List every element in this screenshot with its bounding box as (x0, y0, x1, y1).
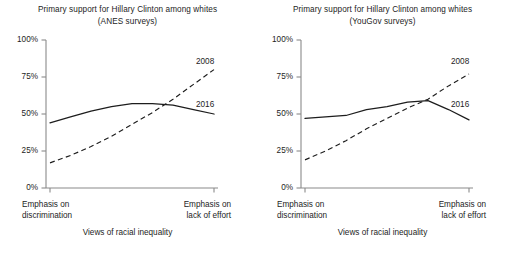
x-axis-category-right-line1: Emphasis on (439, 200, 486, 209)
series-line-2016 (305, 101, 469, 120)
x-axis-category-left-line1: Emphasis on (22, 200, 69, 209)
chart-panel-yougov: Primary support for Hillary Clinton amon… (255, 0, 510, 257)
series-annotation-2016: 2016 (196, 100, 214, 109)
series-annotation-2008: 2008 (196, 57, 214, 66)
y-axis-label-0: 0% (259, 183, 293, 192)
x-axis-category-left-line1: Emphasis on (277, 200, 324, 209)
series-annotation-2008: 2008 (451, 57, 469, 66)
y-axis-label-75: 75% (259, 72, 293, 81)
x-axis-category-left-line2: discrimination (277, 210, 327, 221)
x-axis-category-right: Emphasis on lack of effort (439, 199, 486, 221)
figure-two-panel-line-charts: Primary support for Hillary Clinton amon… (0, 0, 510, 257)
x-axis-category-right-line2: lack of effort (184, 210, 231, 221)
x-axis-category-left-line2: discrimination (22, 210, 72, 221)
x-axis-category-left: Emphasis on discrimination (22, 199, 72, 221)
y-axis-label-0: 0% (4, 183, 38, 192)
y-axis-label-25: 25% (4, 146, 38, 155)
x-axis-category-left: Emphasis on discrimination (277, 199, 327, 221)
y-axis-label-50: 50% (259, 109, 293, 118)
x-axis-category-right: Emphasis on lack of effort (184, 199, 231, 221)
y-axis-label-75: 75% (4, 72, 38, 81)
x-axis-category-right-line1: Emphasis on (184, 200, 231, 209)
y-axis-label-100: 100% (4, 35, 38, 44)
y-axis-label-50: 50% (4, 109, 38, 118)
series-annotation-2016: 2016 (451, 100, 469, 109)
chart-panel-anes: Primary support for Hillary Clinton amon… (0, 0, 255, 257)
x-axis-category-right-line2: lack of effort (439, 210, 486, 221)
series-line-2016 (50, 104, 214, 123)
y-axis-label-25: 25% (259, 146, 293, 155)
x-axis-title-anes: Views of racial inequality (0, 228, 255, 237)
y-axis-label-100: 100% (259, 35, 293, 44)
x-axis-title-yougov: Views of racial inequality (255, 228, 510, 237)
